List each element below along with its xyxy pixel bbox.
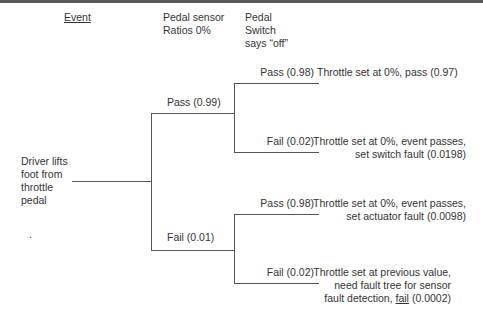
lower-switch-fork-line	[234, 214, 235, 284]
root-event-label: Driver lifts foot from throttle pedal	[21, 155, 68, 207]
stray-dot: .	[29, 228, 32, 241]
header-pedal-switch: Pedal Switch says “off”	[245, 11, 288, 50]
outcome-2: Throttle set at 0%, event passes, set sw…	[300, 135, 466, 161]
outcome-4-last-line: fault detection, fail (0.0002)	[300, 292, 451, 305]
sensor-fail-line	[151, 250, 235, 251]
fail-underlined: fail	[396, 292, 409, 304]
upper-switch-pass-label: Pass (0.98)	[250, 66, 314, 79]
root-line	[72, 181, 152, 182]
sensor-fork-line	[151, 113, 152, 251]
outcome-4: Throttle set at previous value, need fau…	[300, 266, 451, 305]
outcome-1: Throttle set at 0%, pass (0.97)	[317, 66, 458, 79]
header-pedal-sensor: Pedal sensor Ratios 0%	[163, 11, 224, 37]
header-event: Event	[64, 11, 91, 24]
sensor-pass-line	[151, 113, 235, 114]
outcome-3: Throttle set at 0%, event passes, set ac…	[300, 197, 466, 223]
sensor-fail-label: Fail (0.01)	[167, 231, 214, 244]
sensor-pass-label: Pass (0.99)	[167, 96, 221, 109]
upper-switch-pass-line	[234, 83, 319, 84]
upper-switch-fork-line	[234, 83, 235, 153]
top-border	[0, 0, 483, 3]
